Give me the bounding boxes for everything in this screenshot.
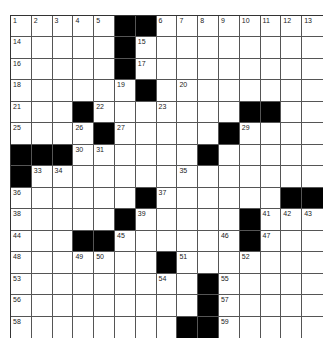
grid-cell[interactable]: 10 [240, 16, 261, 37]
grid-cell[interactable]: 15 [136, 37, 157, 58]
grid-cell[interactable] [53, 209, 74, 230]
grid-cell[interactable] [219, 102, 240, 123]
grid-cell[interactable]: 35 [177, 166, 198, 187]
grid-cell[interactable]: 51 [177, 252, 198, 273]
grid-cell[interactable] [177, 37, 198, 58]
grid-cell[interactable] [136, 317, 157, 338]
grid-cell[interactable] [115, 317, 136, 338]
grid-cell[interactable] [281, 102, 302, 123]
grid-cell[interactable] [94, 166, 115, 187]
grid-cell[interactable] [281, 274, 302, 295]
grid-cell[interactable] [94, 37, 115, 58]
grid-cell[interactable]: 5 [94, 16, 115, 37]
grid-cell[interactable]: 50 [94, 252, 115, 273]
grid-cell[interactable] [136, 252, 157, 273]
grid-cell[interactable] [281, 295, 302, 316]
grid-cell[interactable] [261, 59, 282, 80]
grid-cell[interactable]: 19 [115, 80, 136, 101]
grid-cell[interactable] [136, 295, 157, 316]
grid-cell[interactable] [73, 59, 94, 80]
grid-cell[interactable] [177, 231, 198, 252]
grid-cell[interactable] [177, 209, 198, 230]
grid-cell[interactable] [32, 59, 53, 80]
grid-cell[interactable]: 46 [219, 231, 240, 252]
grid-cell[interactable] [302, 145, 323, 166]
grid-cell[interactable] [94, 209, 115, 230]
grid-cell[interactable] [302, 231, 323, 252]
grid-cell[interactable]: 42 [281, 209, 302, 230]
grid-cell[interactable] [73, 274, 94, 295]
grid-cell[interactable] [157, 80, 178, 101]
grid-cell[interactable] [261, 166, 282, 187]
grid-cell[interactable] [157, 209, 178, 230]
grid-cell[interactable]: 34 [53, 166, 74, 187]
grid-cell[interactable] [136, 166, 157, 187]
grid-cell[interactable] [219, 209, 240, 230]
grid-cell[interactable] [198, 59, 219, 80]
grid-cell[interactable]: 39 [136, 209, 157, 230]
grid-cell[interactable] [302, 295, 323, 316]
grid-cell[interactable] [302, 123, 323, 144]
grid-cell[interactable] [32, 102, 53, 123]
grid-cell[interactable] [53, 80, 74, 101]
grid-cell[interactable] [53, 188, 74, 209]
grid-cell[interactable] [261, 274, 282, 295]
grid-cell[interactable] [73, 188, 94, 209]
grid-cell[interactable]: 12 [281, 16, 302, 37]
grid-cell[interactable] [281, 145, 302, 166]
grid-cell[interactable] [136, 274, 157, 295]
grid-cell[interactable] [198, 166, 219, 187]
grid-cell[interactable]: 22 [94, 102, 115, 123]
grid-cell[interactable] [240, 188, 261, 209]
grid-cell[interactable] [261, 188, 282, 209]
grid-cell[interactable] [73, 209, 94, 230]
grid-cell[interactable] [198, 37, 219, 58]
grid-cell[interactable] [302, 166, 323, 187]
grid-cell[interactable] [32, 295, 53, 316]
grid-cell[interactable] [94, 317, 115, 338]
grid-cell[interactable]: 57 [219, 295, 240, 316]
grid-cell[interactable] [219, 188, 240, 209]
grid-cell[interactable]: 52 [240, 252, 261, 273]
grid-cell[interactable] [94, 274, 115, 295]
grid-cell[interactable] [240, 145, 261, 166]
grid-cell[interactable] [198, 188, 219, 209]
grid-cell[interactable] [53, 317, 74, 338]
grid-cell[interactable] [281, 252, 302, 273]
grid-cell[interactable]: 26 [73, 123, 94, 144]
grid-cell[interactable]: 4 [73, 16, 94, 37]
grid-cell[interactable] [94, 188, 115, 209]
grid-cell[interactable]: 58 [11, 317, 32, 338]
grid-cell[interactable]: 9 [219, 16, 240, 37]
grid-cell[interactable] [240, 317, 261, 338]
grid-cell[interactable]: 3 [53, 16, 74, 37]
grid-cell[interactable] [198, 123, 219, 144]
grid-cell[interactable] [157, 59, 178, 80]
grid-cell[interactable]: 30 [73, 145, 94, 166]
grid-cell[interactable] [115, 274, 136, 295]
grid-cell[interactable]: 13 [302, 16, 323, 37]
grid-cell[interactable] [32, 252, 53, 273]
grid-cell[interactable]: 56 [11, 295, 32, 316]
grid-cell[interactable]: 55 [219, 274, 240, 295]
grid-cell[interactable] [240, 37, 261, 58]
grid-cell[interactable]: 17 [136, 59, 157, 80]
grid-cell[interactable] [115, 252, 136, 273]
grid-cell[interactable] [261, 145, 282, 166]
grid-cell[interactable] [281, 37, 302, 58]
grid-cell[interactable]: 53 [11, 274, 32, 295]
grid-cell[interactable] [281, 80, 302, 101]
grid-cell[interactable] [302, 317, 323, 338]
grid-cell[interactable] [73, 37, 94, 58]
grid-cell[interactable] [73, 80, 94, 101]
grid-cell[interactable] [53, 252, 74, 273]
grid-cell[interactable] [73, 295, 94, 316]
grid-cell[interactable]: 2 [32, 16, 53, 37]
grid-cell[interactable] [157, 295, 178, 316]
grid-cell[interactable]: 36 [11, 188, 32, 209]
grid-cell[interactable] [302, 252, 323, 273]
grid-cell[interactable] [115, 102, 136, 123]
grid-cell[interactable] [94, 295, 115, 316]
grid-cell[interactable]: 43 [302, 209, 323, 230]
grid-cell[interactable] [53, 123, 74, 144]
